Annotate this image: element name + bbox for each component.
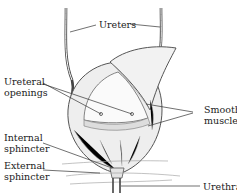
leader-ureters-left: [70, 25, 96, 32]
label-smooth-muscle-line2: muscle: [204, 115, 237, 126]
label-internal-sphincter-line1: Internal: [4, 132, 43, 143]
label-internal-sphincter-line2: sphincter: [4, 143, 50, 154]
leader-external: [43, 170, 100, 173]
label-external-sphincter-line2: sphincter: [4, 171, 50, 182]
urethra: [113, 178, 120, 193]
label-ureters: Ureters: [99, 19, 136, 30]
label-urethra: Urethra: [203, 181, 237, 192]
label-ureteral-openings-line2: openings: [4, 87, 48, 98]
label-ureteral-openings-line1: Ureteral: [4, 76, 45, 87]
label-smooth-muscle-line1: Smooth: [204, 104, 237, 115]
left-ureter: [66, 8, 73, 96]
label-external-sphincter-line1: External: [4, 160, 45, 171]
